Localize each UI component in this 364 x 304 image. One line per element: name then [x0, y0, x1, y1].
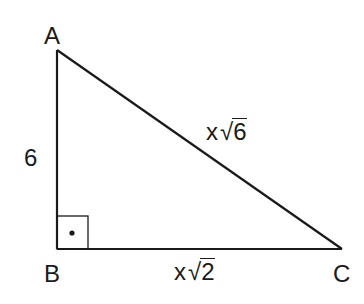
triangle-diagram: A B C 6 x √ 6 x √ 2	[0, 0, 364, 304]
vertex-label-a: A	[44, 24, 60, 48]
side-label-ac-radicand: 6	[232, 118, 246, 144]
right-angle-dot-icon	[69, 230, 74, 235]
vertex-label-c: C	[333, 262, 350, 286]
sqrt-icon: √ 6	[220, 118, 247, 144]
sqrt-icon: √ 2	[188, 258, 215, 284]
side-label-ac-variable: x	[206, 120, 218, 144]
side-ac	[57, 50, 342, 249]
vertex-label-b: B	[44, 262, 60, 286]
side-label-bc: x √ 2	[174, 258, 215, 284]
side-label-ac: x √ 6	[206, 118, 247, 144]
side-label-bc-variable: x	[174, 260, 186, 284]
side-label-bc-radicand: 2	[200, 258, 214, 284]
side-label-ab: 6	[24, 146, 37, 170]
